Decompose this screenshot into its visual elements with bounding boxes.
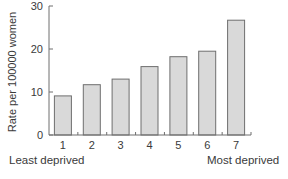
most-deprived-label: Most deprived	[207, 154, 279, 166]
x-tick-label: 3	[118, 139, 124, 151]
x-tick-label: 7	[233, 139, 239, 151]
y-axis-label: Rate per 100000 women	[6, 12, 18, 132]
bar-3	[112, 79, 129, 135]
bar-6	[199, 51, 216, 135]
bar-2	[83, 85, 100, 135]
y-tick-label: 30	[31, 0, 43, 12]
chart-canvas: 12345670102030 Rate per 100000 women	[0, 0, 288, 179]
x-tick-label: 6	[204, 139, 210, 151]
bar-5	[170, 57, 187, 135]
bar-4	[141, 67, 158, 135]
y-tick-label: 0	[37, 129, 43, 141]
y-tick-label: 10	[31, 86, 43, 98]
least-deprived-label: Least deprived	[9, 154, 84, 166]
bar-chart: 12345670102030 Rate per 100000 women Lea…	[0, 0, 288, 179]
bars-group	[54, 20, 244, 135]
x-tick-label: 5	[175, 139, 181, 151]
bar-1	[54, 96, 71, 135]
y-tick-label: 20	[31, 43, 43, 55]
x-tick-label: 1	[60, 139, 66, 151]
x-tick-label: 4	[146, 139, 152, 151]
bar-7	[228, 20, 245, 135]
x-tick-label: 2	[89, 139, 95, 151]
